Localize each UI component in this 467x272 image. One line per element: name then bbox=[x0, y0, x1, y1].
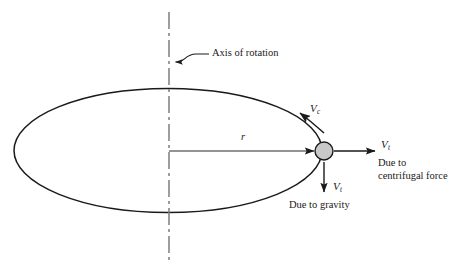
centrifugal-force-caption-line2: centrifugal force bbox=[378, 170, 448, 183]
tangential-velocity-label: Vc bbox=[310, 102, 320, 114]
tangential-velocity-symbol: V bbox=[310, 102, 317, 114]
centrifugal-velocity-subscript: t bbox=[388, 144, 390, 152]
centrifugal-velocity-symbol: V bbox=[381, 138, 388, 150]
centrifugal-force-caption: Due to centrifugal force bbox=[378, 157, 448, 182]
centrifugal-force-caption-line1: Due to bbox=[378, 157, 448, 170]
axis-of-rotation-label: Axis of rotation bbox=[212, 47, 279, 60]
gravity-velocity-symbol: V bbox=[333, 180, 340, 192]
tangential-velocity-subscript: c bbox=[317, 108, 320, 116]
gravity-velocity-subscript: t bbox=[340, 186, 342, 194]
centrifugal-velocity-label: Vt bbox=[381, 138, 390, 150]
particle-body bbox=[315, 142, 333, 160]
gravity-caption: Due to gravity bbox=[289, 199, 350, 212]
diagram-canvas: Axis of rotation r Vc Vt Due to centrifu… bbox=[0, 0, 467, 272]
axis-label-leader-line bbox=[176, 54, 210, 62]
radius-label: r bbox=[241, 131, 245, 142]
diagram-vector-layer bbox=[0, 0, 467, 272]
gravity-velocity-label: Vt bbox=[333, 180, 342, 192]
tangential-velocity-arrow bbox=[300, 113, 324, 133]
